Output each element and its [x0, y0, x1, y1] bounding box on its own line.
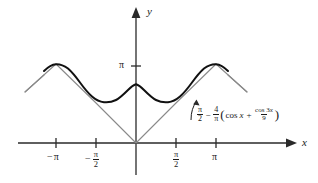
fraction-denominator: 9 — [261, 114, 267, 122]
fraction-numerator: π — [93, 150, 99, 159]
fraction-numerator: cos 3x — [254, 107, 274, 114]
fraction-denominator: π — [213, 114, 219, 123]
x-tick-label-pi: π — [212, 152, 217, 162]
fraction-denominator: 2 — [173, 159, 179, 169]
fraction-denominator: 2 — [197, 114, 203, 123]
cos-function-1: cos — [226, 110, 238, 120]
pi-glyph: π — [54, 152, 59, 162]
curve-exact-right-tail — [228, 75, 247, 92]
y-tick-label-pi: π — [119, 60, 124, 70]
x-tick-label-neg-pi: −π — [47, 152, 59, 162]
minus-operator: − — [206, 110, 211, 120]
fraction-pi-over-2: π 2 — [197, 106, 203, 123]
fraction-pi-over-2: π 2 — [93, 150, 99, 168]
formula-annotation: π 2 − 4 π ( cos x + cos 3x 9 ) — [196, 106, 279, 123]
fraction-cos3x-over-9: cos 3x 9 — [254, 107, 274, 122]
fraction-denominator: 2 — [93, 159, 99, 169]
fraction-4-over-pi: 4 π — [213, 106, 219, 123]
open-paren: ( — [220, 108, 224, 121]
x-axis-label: x — [302, 137, 307, 148]
fraction-pi-over-2: π 2 — [173, 150, 179, 168]
plus-operator: + — [247, 110, 252, 120]
fraction-numerator: π — [173, 150, 179, 159]
close-paren: ) — [275, 108, 279, 121]
y-axis-label: y — [147, 6, 152, 17]
figure-container: y x π −π − π 2 π 2 π π 2 − 4 π ( cos — [0, 0, 318, 183]
cos-function-2: cos 3 — [255, 106, 270, 114]
x-axis-arrow-icon — [286, 139, 297, 148]
fraction-numerator: 4 — [213, 106, 219, 114]
neg-sign: − — [47, 152, 53, 162]
variable-x-1: x — [240, 110, 244, 120]
variable-x-2: x — [270, 106, 273, 114]
x-tick-label-neg-pi-half: − π 2 — [85, 150, 100, 168]
curve-exact-left-tail — [25, 75, 44, 92]
fraction-numerator: π — [197, 106, 203, 114]
x-tick-label-pi-half: π 2 — [172, 150, 180, 168]
y-axis-arrow-icon — [132, 7, 141, 18]
neg-sign: − — [85, 154, 91, 164]
